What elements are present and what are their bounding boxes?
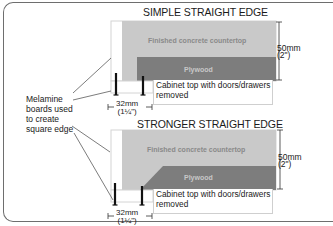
plywood-label: Plywood: [184, 65, 213, 74]
callout-leaders: [72, 58, 113, 200]
concrete-label: Finished concrete countertop: [148, 36, 246, 45]
melamine-base-strip: [111, 190, 153, 202]
cabinet-top-label: Cabinet top with doors/drawers removed: [153, 80, 273, 105]
width-dimension: 32mm (1¼"): [116, 100, 138, 116]
melamine-base-strip: [111, 81, 153, 93]
plywood-label: Plywood: [184, 173, 213, 182]
title-simple-straight-edge: SIMPLE STRAIGHT EDGE: [143, 6, 268, 18]
width-dimension: 32mm (1¼"): [116, 209, 138, 225]
melamine-callout: Melamine boards used to create square ed…: [26, 94, 73, 134]
height-dimension: 50mm (2"): [277, 45, 301, 59]
height-dimension: 50mm (2"): [278, 154, 302, 168]
title-stronger-straight-edge: STRONGER STRAIGHT EDGE: [137, 118, 283, 130]
concrete-label: Finished concrete countertop: [147, 145, 245, 154]
cabinet-top-label: Cabinet top with doors/drawers removed: [153, 189, 273, 214]
